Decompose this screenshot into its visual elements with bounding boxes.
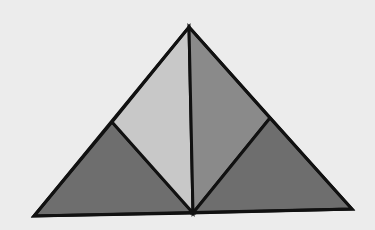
diagram-canvas: [0, 0, 375, 230]
pieces-group: [34, 27, 352, 216]
triangle-dissection-figure: [0, 0, 375, 230]
